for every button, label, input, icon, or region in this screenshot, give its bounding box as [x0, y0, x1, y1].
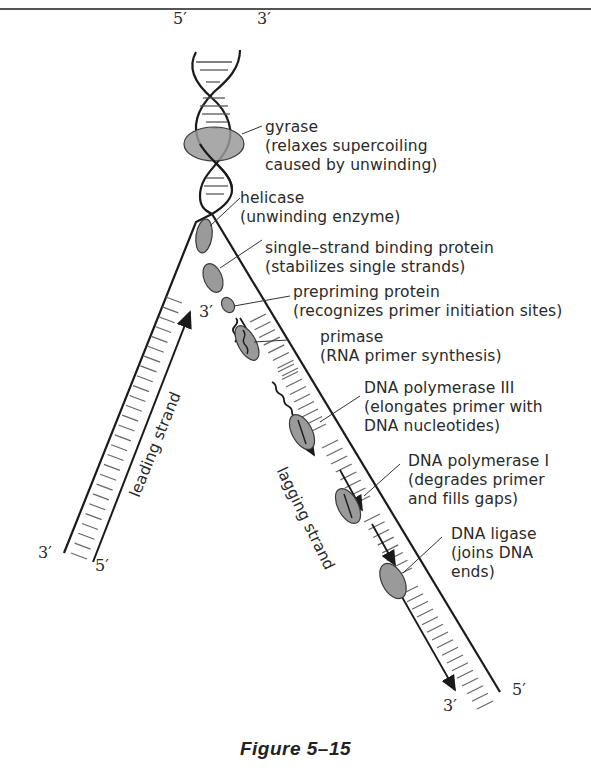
helicase-label: helicase (unwinding enzyme) — [240, 189, 400, 227]
primase-enzyme — [230, 322, 264, 364]
label-fork-3prime: 3′ — [199, 302, 213, 321]
ligase-enzyme — [374, 559, 411, 603]
label-top-5prime: 5′ — [173, 9, 187, 28]
pol1-label: DNA polymerase I (degrades primer and fi… — [408, 452, 549, 509]
label-bottom-left-5prime: 5′ — [95, 556, 109, 575]
label-bottom-right-3prime: 3′ — [443, 696, 457, 715]
ligase-label: DNA ligase (joins DNA ends) — [451, 525, 537, 582]
ssb-label: single–strand binding protein (stabilize… — [265, 239, 494, 277]
figure-caption: Figure 5–15 — [0, 738, 591, 760]
gyrase-enzyme — [184, 127, 244, 161]
primase-label: primase (RNA primer synthesis) — [320, 328, 502, 366]
label-top-3prime: 3′ — [257, 9, 271, 28]
pol3-label: DNA polymerase III (elongates primer wit… — [364, 379, 543, 436]
label-bottom-left-3prime: 3′ — [38, 543, 52, 562]
label-bottom-right-5prime: 5′ — [512, 680, 526, 699]
lagging-rungs — [250, 314, 493, 709]
prepriming-enzyme — [219, 295, 237, 315]
leading-arm — [64, 214, 212, 553]
helicase-enzyme — [194, 218, 215, 254]
prepriming-label: prepriming protein (recognizes primer in… — [293, 283, 562, 321]
leading-strand-new — [93, 312, 190, 562]
gyrase-label: gyrase (relaxes supercoiling caused by u… — [265, 118, 437, 175]
